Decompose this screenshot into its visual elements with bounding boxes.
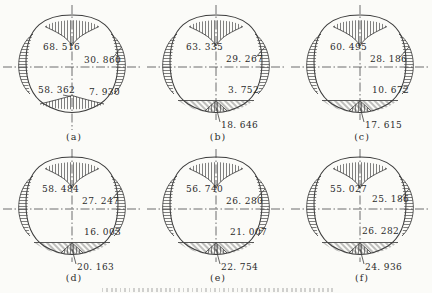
right-pressure-lobe: [399, 176, 413, 236]
value-crown: 68. 516: [43, 42, 80, 52]
tunnel-pressure-figure: 68. 516 30. 860 58. 362 7. 930 (a): [0, 0, 432, 293]
invert-pressure-lobe: [40, 96, 104, 110]
value-crown: 56. 740: [186, 184, 223, 194]
value-bottom-center: 20. 163: [77, 262, 114, 272]
panel-label: (b): [210, 131, 227, 142]
panel-f: 55. 027 25. 186 26. 282 24. 936 (f): [288, 146, 432, 293]
left-pressure-lobe: [19, 34, 33, 94]
value-bottom-right: 3. 752: [228, 85, 259, 95]
value-bottom-right: 16. 003: [84, 227, 121, 237]
panel-label: (f): [355, 272, 369, 283]
left-pressure-lobe: [307, 34, 321, 94]
value-right: 29. 267: [226, 54, 263, 64]
figure-grid: 68. 516 30. 860 58. 362 7. 930 (a): [0, 0, 432, 293]
cropped-caption-fragment: [102, 288, 334, 292]
left-pressure-lobe: [307, 176, 321, 236]
panel-d: 58. 484 27. 247 16. 003 20. 163 (d): [0, 146, 144, 293]
value-right: 27. 247: [82, 196, 119, 206]
value-bottom-center: 24. 936: [365, 262, 402, 272]
value-right: 26. 280: [226, 196, 263, 206]
value-bottom-left: 58. 362: [38, 85, 75, 95]
value-crown: 63. 335: [186, 42, 223, 52]
value-bottom-right: 26. 282: [362, 226, 399, 236]
left-pressure-lobe: [163, 34, 177, 94]
value-bottom-right: 7. 930: [89, 87, 120, 97]
panel-label: (d): [66, 272, 83, 283]
value-bottom-right: 21. 007: [230, 227, 267, 237]
panel-e: 56. 740 26. 280 21. 007 22. 754 (e): [144, 146, 288, 293]
panel-label: (c): [354, 131, 370, 142]
value-right: 30. 860: [84, 55, 121, 65]
value-right: 28. 186: [370, 54, 407, 64]
panel-a: 68. 516 30. 860 58. 362 7. 930 (a): [0, 0, 144, 146]
panel-b: 63. 335 29. 267 3. 752 18. 646 (b): [144, 0, 288, 146]
panel-label: (e): [210, 272, 226, 283]
value-crown: 58. 484: [42, 184, 79, 194]
value-right: 25. 186: [372, 194, 409, 204]
left-pressure-lobe: [163, 176, 177, 236]
value-bottom-center: 22. 754: [221, 262, 258, 272]
panel-c: 60. 495 28. 186 10. 672 17. 615 (c): [288, 0, 432, 146]
value-bottom-center: 17. 615: [365, 120, 402, 130]
value-crown: 55. 027: [330, 184, 367, 194]
value-crown: 60. 495: [330, 42, 367, 52]
left-pressure-lobe: [19, 176, 33, 236]
panel-label: (a): [66, 131, 82, 142]
value-bottom-center: 18. 646: [221, 120, 258, 130]
value-bottom-right: 10. 672: [372, 85, 409, 95]
